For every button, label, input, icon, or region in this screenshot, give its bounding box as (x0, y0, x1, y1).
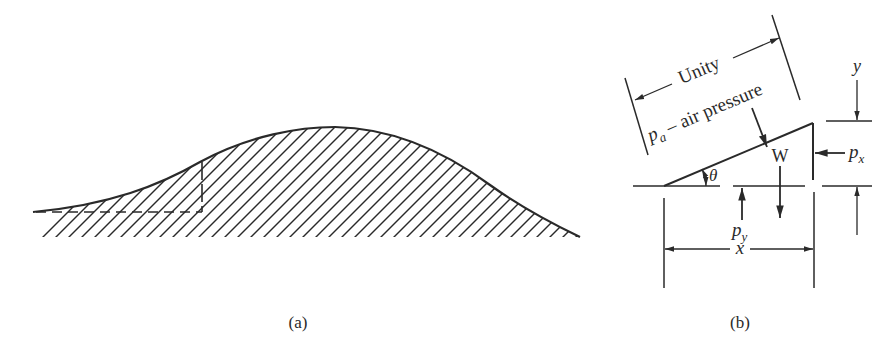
weight-label: W (772, 146, 789, 166)
caption-a: (a) (289, 313, 308, 332)
figure-b-labels: Unity pa – air pressure W θ px py x y (b… (642, 52, 864, 332)
unity-extension-right (772, 15, 800, 100)
px-label: px (847, 141, 865, 166)
caption-b: (b) (730, 313, 750, 332)
figure-b (625, 15, 872, 288)
x-dimension-label: x (735, 237, 745, 258)
unity-arrow-left (635, 84, 672, 100)
unity-arrow-right (733, 38, 779, 58)
px-subscript: x (858, 151, 865, 166)
air-pressure-arrow (752, 108, 767, 147)
y-dimension-label: y (851, 56, 861, 76)
px-symbol: p (847, 141, 859, 162)
unity-label: Unity (675, 52, 724, 88)
theta-angle-arc (702, 169, 706, 186)
hypotenuse (664, 123, 813, 186)
air-pressure-text: – air pressure (659, 78, 766, 139)
figure-canvas: (a) (0, 0, 891, 350)
unity-extension-left (625, 78, 648, 155)
theta-label: θ (709, 166, 717, 185)
